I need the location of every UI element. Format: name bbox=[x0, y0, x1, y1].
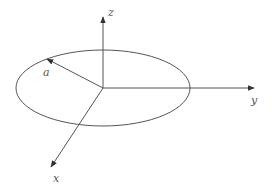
x-axis bbox=[51, 88, 103, 167]
y-axis-label: y bbox=[250, 94, 258, 107]
z-axis-label: z bbox=[107, 6, 114, 19]
coordinate-diagram: z y x a bbox=[0, 0, 272, 187]
x-axis-label: x bbox=[53, 172, 60, 185]
radius-label: a bbox=[43, 66, 50, 79]
radius-arrow bbox=[47, 59, 103, 88]
